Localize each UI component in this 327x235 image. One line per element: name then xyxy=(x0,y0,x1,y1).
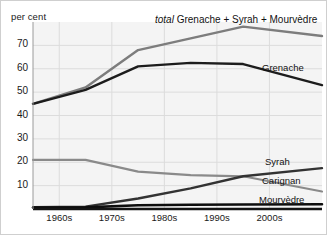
chart-screenshot: per cent 10203040506070 1960s1970s1980s1… xyxy=(0,0,327,235)
y-tick-label: 20 xyxy=(6,155,28,166)
y-tick-label: 50 xyxy=(6,85,28,96)
y-tick-label: 30 xyxy=(6,132,28,143)
x-tick-label: 1960s xyxy=(32,212,86,223)
x-tick-label: 1970s xyxy=(85,212,139,223)
y-tick-label: 60 xyxy=(6,62,28,73)
title-rest-text: Grenache + Syrah + Mourvèdre xyxy=(174,14,317,25)
x-tick-label: 2000s xyxy=(243,212,297,223)
y-tick-label: 10 xyxy=(6,179,28,190)
series-label-grenache: Grenache xyxy=(262,62,304,73)
series-label-total: total Grenache + Syrah + Mourvèdre xyxy=(155,14,317,25)
x-tick-label: 1990s xyxy=(190,212,244,223)
y-tick-label: 70 xyxy=(6,38,28,49)
series-label-mourvedre: Mourvèdre xyxy=(259,194,304,205)
title-italic-word: total xyxy=(155,14,174,25)
x-tick-label: 1980s xyxy=(137,212,191,223)
series-label-carignan: Carignan xyxy=(262,175,301,186)
y-tick-label: 40 xyxy=(6,109,28,120)
series-label-syrah: Syrah xyxy=(265,156,290,167)
